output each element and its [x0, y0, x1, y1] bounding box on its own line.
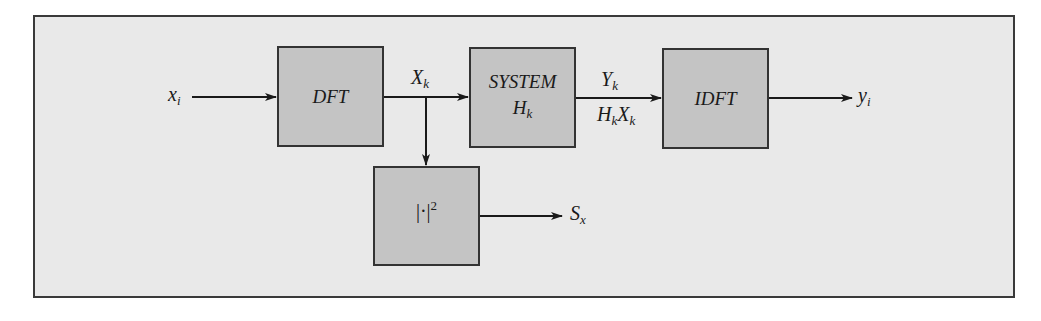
input-symbol: x — [168, 83, 177, 105]
h-symbol: H — [597, 103, 611, 125]
output-index: i — [867, 94, 871, 109]
system-h: H — [513, 97, 527, 118]
input-signal-label: xi — [168, 83, 181, 109]
idft-block: IDFT — [662, 48, 769, 149]
input-index: i — [177, 93, 181, 108]
dft-output-index: k — [423, 76, 429, 91]
idft-label: IDFT — [694, 88, 736, 110]
system-block: SYSTEM Hk — [469, 47, 576, 148]
system-label: SYSTEM — [489, 69, 557, 95]
x-symbol: X — [617, 103, 629, 125]
dft-output-label: Xk — [411, 66, 429, 92]
magnitude-squared-block: |·|2 — [373, 166, 480, 266]
output-signal-label: yi — [858, 84, 871, 110]
magnitude-bars: |·| — [416, 200, 431, 222]
dft-block: DFT — [277, 46, 384, 147]
y-k-symbol: Y — [601, 68, 612, 90]
output-symbol: y — [858, 84, 867, 106]
spectrum-label: Sx — [570, 202, 586, 228]
x-index: k — [629, 113, 635, 128]
dft-label: DFT — [313, 86, 349, 108]
system-h-index: k — [526, 106, 532, 121]
system-output-bottom-label: HkXk — [597, 103, 635, 129]
dft-output-symbol: X — [411, 66, 423, 88]
magnitude-squared-label: |·|2 — [416, 198, 437, 223]
y-k-index: k — [612, 78, 618, 93]
magnitude-power: 2 — [431, 198, 438, 213]
system-transfer-function: Hk — [513, 95, 533, 127]
system-output-top-label: Yk — [601, 68, 618, 94]
spectrum-symbol: S — [570, 202, 580, 224]
spectrum-index: x — [580, 212, 586, 227]
